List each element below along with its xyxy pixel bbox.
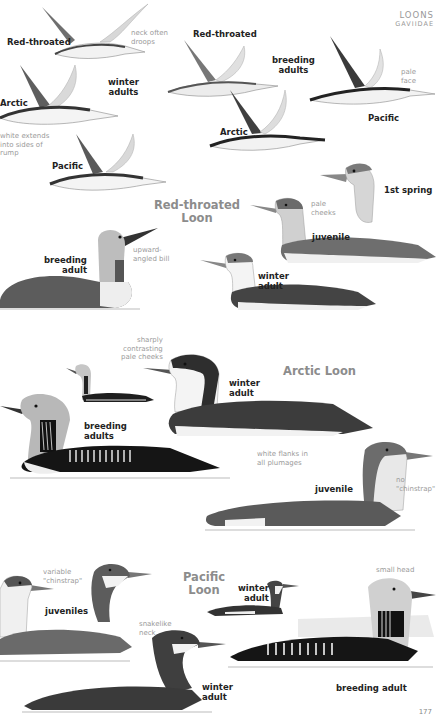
flight-group-label-breeding: breeding adults (272, 55, 315, 75)
plate-label-arctic-breeding-adults: breeding adults (84, 421, 127, 441)
flight-label-red-throated-breeding: Red-throated (193, 29, 257, 39)
flight-label-pacific-winter: Pacific (52, 161, 83, 171)
note-upward-angled-bill: upward- angled bill (133, 246, 169, 263)
page-number: 177 (419, 708, 432, 716)
flight-label-red-throated-winter: Red-throated (7, 37, 71, 47)
plate-label-red-throated-breeding-adult: breeding adult (44, 255, 87, 275)
note-small-head: small head (376, 566, 414, 575)
page-header: LOONS GAVIIDAE (395, 10, 434, 28)
plate-label-pacific-winter-adult: winter adult (202, 682, 233, 702)
section-title-red-throated-loon: Red-throated Loon (152, 199, 242, 225)
plate-label-red-throated-winter-adult: winter adult (258, 271, 289, 291)
plate-label-red-throated-juvenile: juvenile (312, 232, 350, 242)
pacific-winter-adult-illustration (22, 628, 227, 716)
family-name: LOONS (395, 10, 434, 20)
plate-label-pacific-juveniles: juveniles (45, 606, 88, 616)
plate-label-pacific-breeding-adult: breeding adult (336, 683, 407, 693)
note-neck-droops: neck often droops (131, 29, 168, 46)
flight-label-arctic-breeding: Arctic (220, 127, 248, 137)
note-pale-face: pale face (401, 68, 416, 85)
note-pale-cheeks: pale cheeks (311, 200, 336, 217)
note-white-rump: white extends into sides of rump (0, 132, 49, 158)
note-no-chinstrap: no "chinstrap" (396, 476, 435, 493)
note-snakelike-neck: snakelike neck (139, 620, 171, 637)
pacific-breeding-adult-illustration (228, 575, 440, 675)
flying-pacific-breeding-illustration (310, 34, 435, 109)
plate-label-arctic-juvenile: juvenile (315, 484, 353, 494)
plate-label-arctic-winter-adult: winter adult (229, 378, 260, 398)
note-sharply-contrasting-pale-cheeks: sharply contrasting pale cheeks (121, 336, 163, 362)
note-variable-chinstrap: variable "chinstrap" (43, 568, 82, 585)
flying-arctic-winter-illustration (0, 60, 120, 130)
flight-label-arctic-winter: Arctic (0, 98, 28, 108)
flying-arctic-breeding-illustration (210, 88, 325, 153)
flight-label-pacific-breeding: Pacific (368, 113, 399, 123)
family-latin-name: GAVIIDAE (395, 20, 434, 28)
pacific-juvenile-head-illustration (88, 562, 154, 624)
flight-group-label-winter: winter adults (108, 77, 139, 97)
plate-label-red-throated-1st-spring: 1st spring (384, 185, 432, 195)
arctic-winter-adult-illustration (143, 352, 378, 442)
